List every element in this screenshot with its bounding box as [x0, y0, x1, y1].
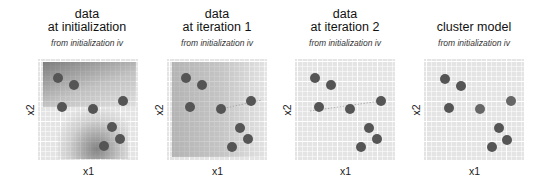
data-point: [506, 96, 516, 106]
points-panel-4: [440, 74, 516, 152]
points-panel-3: [310, 73, 386, 152]
data-point: [216, 104, 226, 114]
data-point: [376, 96, 386, 106]
data-point: [475, 104, 485, 114]
data-point: [444, 103, 454, 113]
points-panel-2: [181, 73, 256, 152]
data-point: [372, 134, 382, 144]
data-point: [185, 102, 195, 112]
data-point: [227, 142, 237, 152]
data-point: [115, 134, 125, 144]
data-point: [197, 80, 207, 90]
data-point: [69, 80, 79, 90]
data-point: [118, 96, 128, 106]
data-point: [356, 142, 366, 152]
data-point: [181, 73, 191, 83]
data-point: [235, 123, 245, 133]
data-point: [487, 142, 497, 152]
data-point: [440, 74, 450, 84]
data-point: [314, 102, 324, 112]
data-point: [345, 104, 355, 114]
data-point: [494, 123, 504, 133]
data-point: [364, 123, 374, 133]
data-point: [246, 96, 256, 106]
data-point: [53, 73, 63, 83]
data-point: [243, 134, 253, 144]
data-point: [502, 135, 512, 145]
data-point: [88, 104, 98, 114]
scatter-points-layer: [0, 0, 549, 185]
points-panel-1: [53, 73, 128, 151]
data-point: [326, 80, 336, 90]
data-point: [107, 122, 117, 132]
data-point: [456, 81, 466, 91]
data-point: [310, 73, 320, 83]
data-point: [99, 141, 109, 151]
data-point: [57, 102, 67, 112]
